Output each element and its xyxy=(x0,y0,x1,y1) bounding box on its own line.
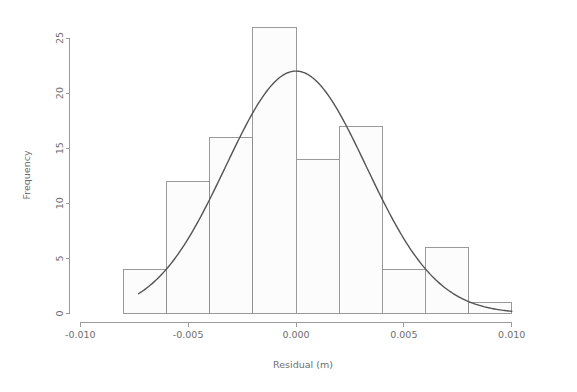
y-tick-label: 10 xyxy=(54,197,65,209)
y-tick-label: 20 xyxy=(54,87,65,99)
histogram-bars xyxy=(123,27,511,313)
histogram-bar xyxy=(382,269,425,313)
x-tick-label: 0.010 xyxy=(498,329,525,340)
x-axis: -0.010-0.0050.0000.0050.010 xyxy=(65,323,525,340)
y-tick-label: 0 xyxy=(54,310,65,316)
histogram-bar xyxy=(167,181,210,313)
histogram-figure: 0510152025 -0.010-0.0050.0000.0050.010 R… xyxy=(0,0,577,392)
histogram-bar xyxy=(253,27,296,313)
histogram-bar xyxy=(425,247,468,313)
x-tick-label: 0.000 xyxy=(282,329,309,340)
y-tick-label: 15 xyxy=(54,142,65,154)
x-tick-label: -0.005 xyxy=(173,329,204,340)
y-axis: 0510152025 xyxy=(54,32,70,317)
histogram-bar xyxy=(296,159,339,313)
x-tick-label: -0.010 xyxy=(65,329,96,340)
plot-canvas: 0510152025 -0.010-0.0050.0000.0050.010 R… xyxy=(0,0,577,392)
x-axis-title: Residual (m) xyxy=(273,359,333,370)
x-tick-label: 0.005 xyxy=(390,329,417,340)
histogram-bar xyxy=(210,137,253,313)
y-axis-title: Frequency xyxy=(21,150,32,199)
y-tick-label: 25 xyxy=(54,32,65,44)
y-tick-label: 5 xyxy=(54,255,65,261)
